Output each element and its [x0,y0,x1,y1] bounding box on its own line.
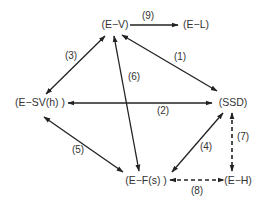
edge-1: (1) [122,35,217,91]
double-arrow-4 [172,113,223,172]
edge-8: (8) [170,180,224,196]
node-esv: (E−SV(h) ) [15,96,65,108]
node-el: (E−L) [183,18,209,30]
edge-7: (7) [232,113,249,171]
edge-4: (4) [172,113,223,172]
edge-9: (9) [130,10,178,25]
edge-label-2: (2) [157,105,169,116]
edge-label-8: (8) [191,185,203,196]
edge-label-9: (9) [142,10,154,21]
node-eh: (E−H) [224,174,252,186]
edge-label-4: (4) [200,141,212,152]
double-arrow-1 [122,35,217,91]
nodes-group: (E−V)(E−L)(E−SV(h) )(SSD)(E−F(s) )(E−H) [15,18,252,186]
node-ef: (E−F(s) ) [125,174,167,186]
edge-label-5: (5) [72,144,84,155]
edge-5: (5) [44,117,123,172]
edge-label-1: (1) [174,51,186,62]
edge-label-7: (7) [237,131,249,142]
double-arrow-3 [46,36,105,94]
edge-label-6: (6) [128,71,140,82]
edge-2: (2) [68,103,212,116]
relationship-diagram: (1)(2)(3)(4)(5)(6)(7)(8)(9) (E−V)(E−L)(E… [0,0,266,201]
edge-label-3: (3) [65,50,77,61]
node-ev: (E−V) [101,18,128,30]
edge-3: (3) [46,36,105,94]
node-ssd: (SSD) [219,96,248,108]
